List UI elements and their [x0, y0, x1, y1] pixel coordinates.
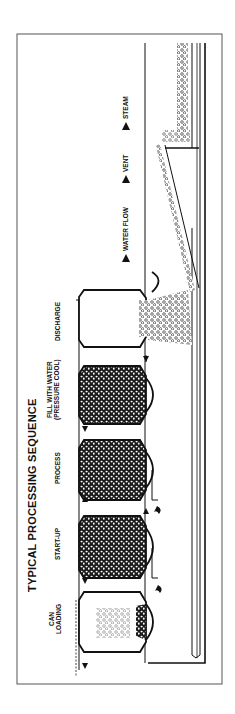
legend-label: VENT [123, 155, 130, 172]
step-label-process: PROCESS [55, 452, 62, 484]
triangle-arrow-icon [122, 254, 130, 262]
processing-sequence-diagram [0, 0, 235, 714]
triangle-arrow-icon [122, 175, 130, 183]
vessel-start-up [79, 516, 162, 593]
legend-label: STEAM [123, 96, 130, 119]
step-label-can-loading: CAN LOADING [49, 604, 63, 634]
vessel-discharge [79, 272, 159, 362]
vessel-fill-with-water [79, 366, 153, 432]
vessel-can-loading [76, 592, 153, 676]
legend-vent: VENT [122, 155, 130, 183]
step-label-line2: (PRESSURE COOL) [54, 359, 61, 420]
step-label-discharge: DISCHARGE [55, 302, 62, 341]
legend-steam: STEAM [122, 96, 130, 130]
triangle-arrow-icon [122, 122, 130, 130]
step-label-start-up: START-UP [55, 528, 62, 560]
step-label-line2: LOADING [56, 604, 63, 634]
vessel-process [79, 440, 161, 514]
step-label-fill-with-water: FILL WITH WATER (PRESSURE COOL) [47, 359, 61, 420]
legend-label: WATER FLOW [123, 207, 130, 251]
diagram-title: TYPICAL PROCESSING SEQUENCE [27, 399, 39, 592]
legend-water-flow: WATER FLOW [122, 207, 130, 262]
